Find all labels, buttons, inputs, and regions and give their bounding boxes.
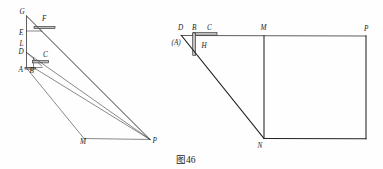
right-label-P: P — [363, 25, 369, 33]
left-label-D: D — [18, 48, 25, 56]
right-label-B: B — [192, 24, 197, 32]
left-sightline-F-to-P — [42, 31, 151, 140]
geometry-figure-canvas: G F E L D C A B M P — [0, 0, 383, 169]
left-segment-DC — [27, 53, 42, 67]
right-figure-group: D (A) B C H M P N — [172, 24, 370, 150]
right-label-N: N — [257, 142, 264, 150]
left-label-A: A — [18, 66, 24, 74]
left-segment-A-to-M — [27, 68, 85, 139]
right-label-C: C — [207, 24, 212, 32]
right-label-H: H — [201, 42, 208, 50]
right-sightline-D-to-N — [182, 36, 265, 139]
left-label-F: F — [41, 15, 47, 23]
figure-46-container: G F E L D C A B M P — [0, 0, 383, 169]
left-label-G: G — [20, 8, 26, 16]
right-bar-BC — [193, 33, 217, 36]
left-figure-group: G F E L D C A B M P — [18, 8, 158, 147]
left-label-E: E — [18, 29, 24, 37]
left-label-M: M — [79, 138, 87, 146]
right-label-A-paren: (A) — [172, 39, 182, 47]
right-label-D: D — [177, 24, 184, 32]
left-segment-M-to-P — [84, 139, 150, 140]
left-label-C: C — [43, 51, 48, 59]
left-label-L: L — [19, 40, 24, 48]
figure-caption: 图46 — [176, 155, 196, 165]
left-sightline-D-to-P — [27, 53, 151, 140]
left-sightline-B-to-P — [34, 68, 151, 140]
right-segment-D-to-P-top — [181, 36, 366, 37]
left-label-P: P — [152, 137, 158, 145]
right-label-M: M — [260, 24, 268, 32]
left-label-B: B — [30, 67, 35, 75]
